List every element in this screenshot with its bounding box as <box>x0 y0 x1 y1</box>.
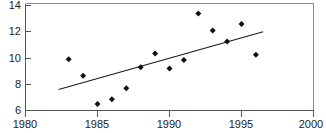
x-tick-label: 1990 <box>157 118 181 130</box>
y-tick-label: 14 <box>9 0 21 11</box>
x-tick-label: 2000 <box>299 118 323 130</box>
y-tick-label: 10 <box>9 52 21 64</box>
chart-background <box>0 0 326 133</box>
y-tick-label: 8 <box>15 78 21 90</box>
x-tick-label: 1995 <box>229 118 253 130</box>
y-tick-label: 12 <box>9 25 21 37</box>
plot-area: 14 12 10 8 6 1980 1985 1990 1995 2000 <box>0 0 326 133</box>
y-tick-label: 6 <box>15 104 21 116</box>
x-tick-label: 1985 <box>85 118 109 130</box>
scatter-chart: 14 12 10 8 6 1980 1985 1990 1995 2000 <box>0 0 326 133</box>
x-tick-label: 1980 <box>13 118 37 130</box>
